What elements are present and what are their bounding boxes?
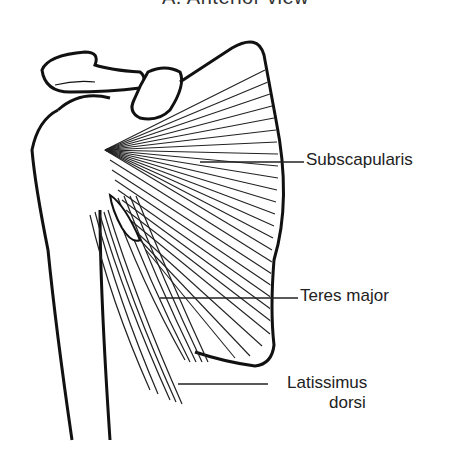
shoulder-anatomy-illustration <box>0 0 471 457</box>
label-latissimus-line2: dorsi <box>329 393 366 413</box>
acromion-bone <box>42 52 144 92</box>
label-subscapularis: Subscapularis <box>306 150 413 170</box>
label-latissimus-line1: Latissimus <box>287 373 367 393</box>
humerus-bone <box>32 96 110 440</box>
teres-major-fibers <box>90 196 208 404</box>
label-teres-major: Teres major <box>300 286 389 306</box>
